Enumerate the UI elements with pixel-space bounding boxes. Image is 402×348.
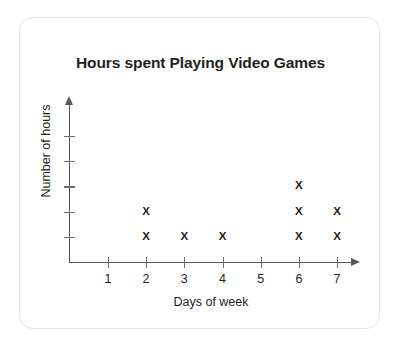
x-axis-tick-label: 2 [135, 272, 157, 286]
y-axis-tick [64, 136, 75, 137]
x-axis-tick [184, 257, 185, 268]
x-axis-label: Days of week [69, 295, 353, 309]
x-axis-tick [261, 257, 262, 268]
x-axis-tick [146, 257, 147, 268]
y-axis-line [69, 104, 70, 263]
x-axis-tick-label: 4 [212, 272, 234, 286]
y-axis-tick [64, 161, 75, 162]
data-marker-x: X [138, 231, 154, 243]
data-marker-x: X [291, 206, 307, 218]
data-marker-x: X [291, 231, 307, 243]
x-axis-tick-label: 3 [173, 272, 195, 286]
x-axis-tick-label: 5 [250, 272, 272, 286]
x-axis-tick [223, 257, 224, 268]
x-axis-tick [108, 257, 109, 268]
data-marker-x: X [176, 231, 192, 243]
data-marker-x: X [329, 231, 345, 243]
plot-area: 1234567 XXXXXXXXX Number of hours Days o… [20, 18, 381, 330]
x-axis-tick [337, 257, 338, 268]
y-axis-tick [64, 186, 75, 187]
y-axis-tick [64, 212, 75, 213]
x-axis-arrow-icon [351, 258, 360, 266]
x-axis-tick [299, 257, 300, 268]
x-axis-tick-label: 1 [97, 272, 119, 286]
chart-card: Hours spent Playing Video Games 1234567 … [19, 17, 380, 329]
data-marker-x: X [215, 231, 231, 243]
x-axis-line [69, 262, 353, 263]
y-axis-label: Number of hours [39, 86, 53, 216]
x-axis-tick-label: 6 [288, 272, 310, 286]
y-axis-tick [64, 237, 75, 238]
x-axis-tick-label: 7 [326, 272, 348, 286]
data-marker-x: X [329, 206, 345, 218]
y-axis-arrow-icon [65, 96, 73, 105]
data-marker-x: X [291, 180, 307, 192]
data-marker-x: X [138, 206, 154, 218]
